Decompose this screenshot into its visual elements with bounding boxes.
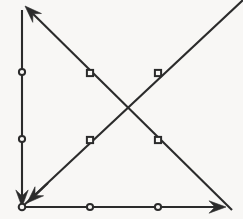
- node-marker-horizontal-edge-0: [87, 204, 93, 210]
- line-diagram-canvas: [0, 0, 243, 219]
- node-marker-horizontal-edge-1: [155, 204, 161, 210]
- node-marker-descending-diagonal-edge-1: [155, 137, 161, 143]
- node-marker-vertical-edge-1: [19, 136, 25, 142]
- node-marker-vertical-edge-0: [19, 69, 25, 75]
- node-marker-ascending-diagonal-edge-0: [87, 137, 93, 143]
- node-marker-origin-node: [19, 204, 26, 211]
- node-marker-ascending-diagonal-edge-1: [155, 70, 161, 76]
- figure-container: Directed line diagram with four segments…: [0, 0, 243, 219]
- node-marker-descending-diagonal-edge-0: [87, 70, 93, 76]
